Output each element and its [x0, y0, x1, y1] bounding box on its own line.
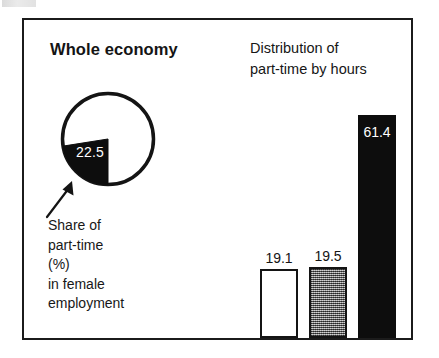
pie-panel-title: Whole economy [50, 40, 178, 59]
pie-caption-line-3: (%) [48, 255, 124, 275]
bar-value-label: 19.5 [309, 248, 347, 264]
bar-value-label: 19.1 [260, 250, 298, 266]
bar-rect [260, 269, 298, 338]
scan-artifact [2, 0, 36, 7]
callout-arrow-svg [42, 178, 86, 220]
pie-chart: 22.5 [59, 90, 157, 188]
pie-caption-line-1: Share of [48, 216, 124, 236]
pie-slice-value-label: 22.5 [76, 144, 104, 160]
pie-caption-line-4: in female [48, 275, 124, 295]
bars-panel-title: Distribution of part-time by hours [250, 38, 367, 80]
bars-title-line-1: Distribution of [250, 38, 367, 59]
bar-chart-plot-area: 19.1 19.5 61.4 [236, 98, 411, 338]
pie-caption: Share of part-time (%) in female employm… [48, 216, 124, 314]
bars-title-line-2: part-time by hours [250, 59, 367, 80]
pie-caption-line-2: part-time [48, 236, 124, 256]
bar-rect [309, 267, 347, 338]
pie-chart-svg [59, 90, 157, 188]
pie-panel: Whole economy 22.5 Share of part-time (%… [24, 20, 236, 338]
figure-frame: Whole economy 22.5 Share of part-time (%… [22, 18, 413, 340]
bar-value-label: 61.4 [358, 124, 396, 140]
pie-caption-line-5: employment [48, 294, 124, 314]
bars-panel: Distribution of part-time by hours 19.1 … [236, 20, 411, 338]
callout-arrow-icon [42, 178, 86, 220]
bar-rect [358, 115, 396, 338]
